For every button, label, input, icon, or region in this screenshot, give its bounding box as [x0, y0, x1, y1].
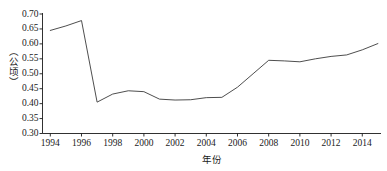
chart-ticks — [40, 14, 363, 137]
y-axis-title: （公顷） — [6, 47, 20, 87]
line-chart: （公顷） 0.700.650.600.550.500.450.400.350.3… — [0, 0, 387, 171]
y-axis-title-container: （公顷） — [2, 0, 24, 134]
chart-axes — [43, 13, 382, 134]
data-series-line — [50, 21, 378, 103]
chart-plot-area — [0, 0, 387, 171]
x-axis-title: 年份 — [182, 152, 242, 166]
